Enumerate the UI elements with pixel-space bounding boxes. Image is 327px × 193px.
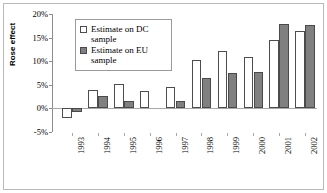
y-tick-mark: [49, 85, 52, 86]
bar-group: [218, 14, 238, 132]
x-tick-label-1997: 1997: [180, 137, 190, 177]
bar-eu-1999: [228, 73, 238, 108]
y-tick-label: -5%: [34, 127, 48, 137]
y-tick-mark: [49, 38, 52, 39]
bar-dc-1995: [114, 84, 124, 108]
x-tick-mark: [305, 133, 306, 136]
x-tick-label-2002: 2002: [309, 137, 319, 177]
x-tick-label-1994: 1994: [102, 137, 112, 177]
y-tick-label: 15%: [32, 33, 48, 43]
x-tick-mark: [150, 133, 151, 136]
y-axis-title: Rose effect: [8, 5, 17, 85]
chart-legend: Estimate on DC sampleEstimate on EU samp…: [75, 19, 172, 71]
bar-dc-2001: [269, 40, 279, 108]
chart-figure: Rose effect 20%15%10%5%0%-5% 19931994199…: [0, 0, 327, 193]
bar-eu-1995: [124, 101, 134, 108]
bar-dc-2002: [295, 31, 305, 109]
x-tick-label-1995: 1995: [128, 137, 138, 177]
bar-eu-2002: [305, 25, 315, 109]
bar-dc-1997: [166, 87, 176, 108]
bar-dc-1993: [62, 108, 72, 117]
y-tick-label: 10%: [32, 56, 48, 66]
x-tick-mark: [176, 133, 177, 136]
legend-item-dc: Estimate on DC sample: [80, 24, 165, 44]
x-tick-mark: [227, 133, 228, 136]
bar-eu-1998: [202, 78, 212, 109]
legend-swatch-eu-icon: [80, 47, 87, 54]
x-tick-label-1996: 1996: [154, 137, 164, 177]
bar-eu-1993: [72, 108, 82, 111]
x-tick-label-1999: 1999: [231, 137, 241, 177]
x-tick-label-2001: 2001: [283, 137, 293, 177]
y-tick-label: 0%: [37, 103, 48, 113]
x-tick-label-1998: 1998: [205, 137, 215, 177]
bar-dc-2000: [244, 57, 254, 108]
x-tick-mark: [253, 133, 254, 136]
legend-label: Estimate on EU sample: [91, 45, 165, 65]
bar-dc-1994: [88, 90, 98, 108]
bar-group: [269, 14, 289, 132]
y-tick-mark: [49, 14, 52, 15]
x-tick-mark: [98, 133, 99, 136]
y-tick-mark: [49, 108, 52, 109]
x-tick-mark: [201, 133, 202, 136]
y-tick-mark: [49, 61, 52, 62]
y-tick-label: 5%: [37, 80, 48, 90]
bar-eu-1997: [176, 101, 186, 109]
bar-eu-2000: [254, 72, 264, 108]
legend-item-eu: Estimate on EU sample: [80, 45, 165, 65]
bar-eu-2001: [279, 24, 289, 108]
bar-dc-1998: [192, 60, 202, 108]
x-tick-mark: [124, 133, 125, 136]
bar-dc-1999: [218, 51, 228, 109]
x-tick-mark: [72, 133, 73, 136]
y-tick-label: 20%: [32, 9, 48, 19]
legend-label: Estimate on DC sample: [91, 24, 165, 44]
x-axis-ticks: 1993199419951996199719981999200020012002: [52, 133, 317, 189]
x-tick-label-2000: 2000: [257, 137, 267, 177]
bar-group: [295, 14, 315, 132]
legend-swatch-dc-icon: [80, 26, 87, 33]
bar-eu-1994: [98, 96, 108, 108]
bar-group: [244, 14, 264, 132]
x-tick-label-1993: 1993: [76, 137, 86, 177]
x-tick-mark: [279, 133, 280, 136]
bar-dc-1996: [140, 91, 150, 108]
bar-group: [192, 14, 212, 132]
